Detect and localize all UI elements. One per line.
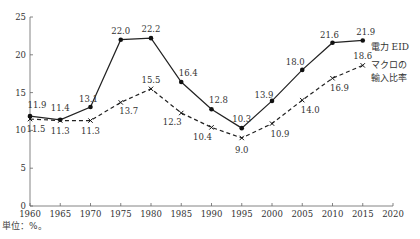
- x-tick-label: 1970: [80, 209, 102, 219]
- x-tick-label: 2005: [291, 209, 313, 219]
- y-tick-label: 5: [21, 163, 26, 173]
- x-tick-label: 2020: [382, 209, 404, 219]
- data-value-label: 22.2: [142, 24, 161, 34]
- data-value-label: 12.8: [209, 95, 228, 105]
- data-value-label: 21.9: [356, 27, 375, 37]
- data-value-label: 13.1: [79, 94, 98, 104]
- data-point-marker: [330, 76, 334, 80]
- data-point-marker: [149, 87, 153, 91]
- data-point-marker: [270, 121, 274, 125]
- legend-electric-eid: 電力 EID: [371, 41, 409, 52]
- data-value-label: 11.4: [51, 103, 70, 113]
- data-value-label: 11.3: [51, 126, 70, 136]
- y-tick-label: 0: [21, 201, 26, 211]
- data-value-label: 12.3: [163, 117, 182, 127]
- data-value-label: 14.0: [301, 105, 320, 115]
- data-labels: 11.911.413.122.022.216.412.810.313.918.0…: [27, 24, 376, 155]
- data-point-marker: [300, 68, 305, 73]
- y-tick-label: 25: [15, 12, 26, 22]
- y-tick-label: 10: [15, 125, 26, 135]
- x-tick-label: 1975: [110, 209, 132, 219]
- y-tick-label: 20: [15, 50, 26, 60]
- data-point-marker: [88, 105, 93, 110]
- x-tick-label: 1980: [140, 209, 162, 219]
- data-value-label: 11.5: [27, 124, 46, 134]
- x-tick-label: 1995: [231, 209, 253, 219]
- data-value-label: 13.9: [255, 90, 274, 100]
- chart-legend: 電力 EIDマクロの輸入比率: [371, 41, 409, 83]
- data-value-label: 18.6: [353, 51, 372, 61]
- data-value-label: 11.3: [81, 126, 100, 136]
- data-value-label: 9.0: [235, 145, 249, 155]
- data-value-label: 21.6: [320, 30, 339, 40]
- chart-series: [28, 36, 365, 140]
- data-value-label: 11.9: [28, 100, 47, 110]
- data-point-marker: [209, 107, 214, 112]
- data-value-label: 22.0: [111, 26, 130, 36]
- x-tick-label: 2010: [322, 209, 344, 219]
- data-value-label: 10.3: [232, 114, 251, 124]
- data-value-label: 10.4: [193, 132, 212, 142]
- data-point-marker: [300, 98, 304, 102]
- data-value-label: 18.0: [286, 57, 305, 67]
- x-tick-label: 2000: [261, 209, 283, 219]
- data-point-marker: [330, 40, 335, 45]
- data-point-marker: [179, 80, 184, 85]
- data-point-marker: [239, 126, 244, 131]
- data-point-marker: [118, 37, 123, 42]
- data-value-label: 10.9: [271, 129, 290, 139]
- data-point-marker: [360, 38, 365, 43]
- line-chart: 1960196519701975198019851990199520002005…: [0, 0, 420, 239]
- unit-note: 単位：%。: [2, 219, 47, 232]
- data-value-label: 15.5: [142, 75, 161, 85]
- data-value-label: 16.9: [330, 83, 349, 93]
- x-tick-label: 1990: [201, 209, 223, 219]
- data-value-label: 16.4: [179, 68, 198, 78]
- data-point-marker: [58, 118, 63, 123]
- y-tick-label: 15: [15, 88, 26, 98]
- data-value-label: 13.7: [119, 106, 138, 116]
- data-point-marker: [149, 36, 154, 41]
- data-point-marker: [119, 100, 123, 104]
- legend-macro-import-ratio-line1: マクロの: [371, 60, 407, 70]
- data-point-marker: [209, 125, 213, 129]
- chart-axes: 1960196519701975198019851990199520002005…: [15, 12, 404, 219]
- data-point-marker: [179, 111, 183, 115]
- x-tick-label: 1985: [170, 209, 192, 219]
- x-tick-label: 1965: [49, 209, 71, 219]
- data-point-marker: [361, 63, 365, 67]
- legend-macro-import-ratio-line2: 輸入比率: [371, 72, 407, 83]
- x-tick-label: 2015: [352, 209, 374, 219]
